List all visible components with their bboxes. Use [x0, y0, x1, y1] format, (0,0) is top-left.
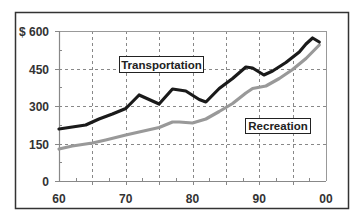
transportation-label-box: Transportation: [120, 57, 204, 73]
y-tick-label: 150: [29, 138, 49, 152]
y-tick-label: 300: [29, 100, 49, 114]
y-tick-label: 0: [42, 175, 49, 189]
recreation-label-box: Recreation: [246, 119, 311, 134]
line-chart: 0150300450$ 600 6070809000 Transportatio…: [0, 0, 361, 220]
x-tick-label: 90: [253, 192, 267, 206]
x-tick-label: 80: [186, 192, 200, 206]
x-tick-label: 60: [52, 192, 66, 206]
y-tick-label: 450: [29, 63, 49, 77]
y-tick-label: $ 600: [19, 25, 49, 39]
x-tick-label: 00: [319, 192, 333, 206]
transportation-label: Transportation: [121, 59, 202, 71]
recreation-label: Recreation: [248, 120, 307, 132]
x-tick-label: 70: [119, 192, 133, 206]
chart-frame: [16, 13, 349, 209]
